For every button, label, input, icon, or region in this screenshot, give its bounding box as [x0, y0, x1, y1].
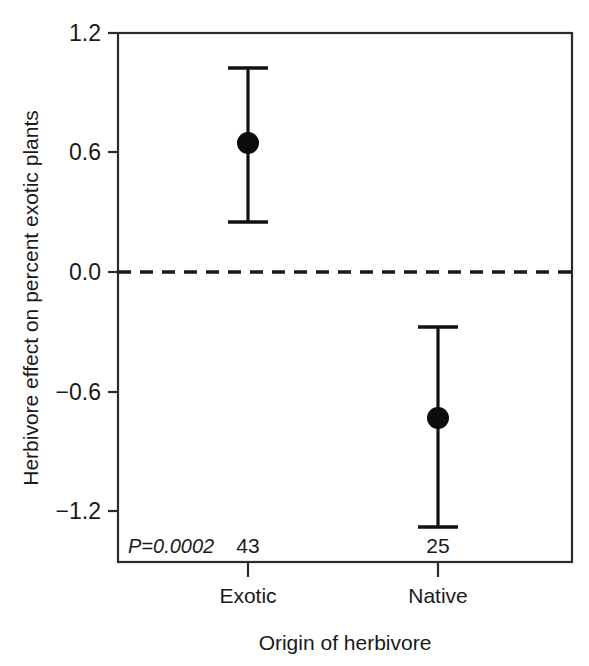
x-tick-label-exotic: Exotic	[219, 584, 276, 607]
p-value-annotation: P=0.0002	[128, 535, 214, 557]
sample-size-exotic: 43	[236, 534, 259, 557]
figure-container: 1.2 0.6 0.0 −0.6 −1.2 P=0.0002 43 25	[0, 0, 589, 666]
datapoint-exotic	[228, 68, 268, 222]
y-axis-title: Herbivore effect on percent exotic plant…	[19, 110, 42, 486]
y-tick-label-0-0: 0.0	[69, 259, 101, 285]
datapoint-native	[418, 327, 458, 527]
y-axis-ticks	[108, 33, 118, 511]
y-tick-label-neg-1-2: −1.2	[56, 498, 101, 524]
y-tick-label-1-2: 1.2	[69, 20, 101, 46]
y-tick-label-neg-0-6: −0.6	[56, 379, 101, 405]
x-axis-title: Origin of herbivore	[259, 631, 432, 654]
mean-marker-exotic	[237, 132, 259, 154]
y-tick-label-0-6: 0.6	[69, 139, 101, 165]
chart-svg: 1.2 0.6 0.0 −0.6 −1.2 P=0.0002 43 25	[0, 0, 589, 666]
x-tick-label-native: Native	[408, 584, 468, 607]
sample-size-native: 25	[426, 534, 449, 557]
mean-marker-native	[427, 407, 449, 429]
plot-frame	[118, 33, 572, 562]
y-axis-tick-labels: 1.2 0.6 0.0 −0.6 −1.2	[56, 20, 101, 524]
x-axis-ticks	[248, 562, 438, 577]
